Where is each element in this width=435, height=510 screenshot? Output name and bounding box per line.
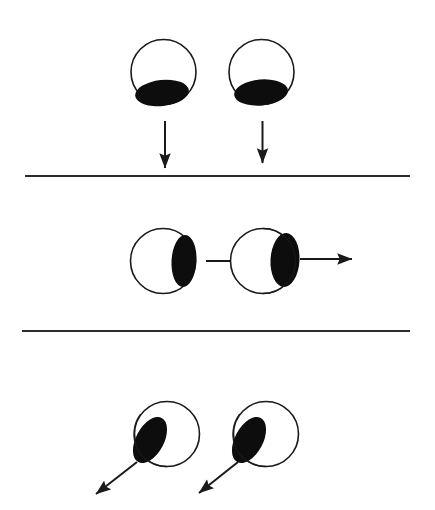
figure-root	[0, 0, 435, 510]
diagram-canvas	[0, 0, 435, 510]
circle-mid-left	[131, 229, 198, 294]
circle-mid-right	[231, 229, 301, 294]
canvas-background	[0, 0, 435, 510]
